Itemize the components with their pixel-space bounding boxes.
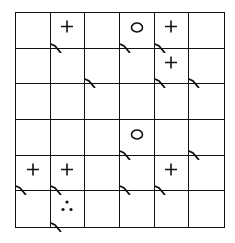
grid-cell-r6-c4 [120,191,155,227]
plus-icon [164,161,178,180]
grid-cell-r3-c5 [155,84,190,120]
grid-cell-r5-c2 [51,156,86,192]
grid-cell-r3-c6 [189,84,224,120]
grid-cell-r5-c6 [189,156,224,192]
corner-tick-icon [120,145,132,155]
corner-tick-icon [155,180,167,190]
corner-tick-icon [155,38,167,48]
grid-cell-r5-c5 [155,156,190,192]
corner-tick-icon [51,217,63,227]
grid-cell-r2-c5 [155,49,190,85]
plus-icon [60,19,74,38]
grid-cell-r1-c6 [189,13,224,49]
grid-cell-r5-c4 [120,156,155,192]
grid-cell-r6-c3 [85,191,120,227]
grid-cell-r4-c3 [85,120,120,156]
grid-cell-r4-c1 [16,120,51,156]
grid-cell-r6-c2 [51,191,86,227]
grid-cell-r2-c3 [85,49,120,85]
plus-icon [164,54,178,73]
corner-tick-icon [189,145,201,155]
corner-tick-icon [155,73,167,83]
three-dots-icon [60,198,74,217]
grid-cell-r1-c1 [16,13,51,49]
corner-tick-icon [120,38,132,48]
plus-icon [26,161,40,180]
grid-cell-r2-c4 [120,49,155,85]
grid-cell-r4-c5 [155,120,190,156]
grid-cell-r1-c2 [51,13,86,49]
circle-icon [130,126,144,145]
corner-tick-icon [51,180,63,190]
grid-cell-r2-c6 [189,49,224,85]
grid-cell-r5-c3 [85,156,120,192]
grid-cell-r4-c4 [120,120,155,156]
circle-icon [130,19,144,38]
grid-cell-r4-c6 [189,120,224,156]
grid-cell-r6-c1 [16,191,51,227]
grid-cell-r5-c1 [16,156,51,192]
grid-cell-r3-c3 [85,84,120,120]
grid-cell-r3-c4 [120,84,155,120]
grid-cell-r1-c5 [155,13,190,49]
grid-cell-r3-c2 [51,84,86,120]
grid-cell-r2-c1 [16,49,51,85]
grid-cell-r6-c6 [189,191,224,227]
grid-cell-r3-c1 [16,84,51,120]
plus-icon [164,19,178,38]
grid-cell-r1-c3 [85,13,120,49]
symbol-grid [15,12,225,228]
corner-tick-icon [189,73,201,83]
grid-cell-r4-c2 [51,120,86,156]
corner-tick-icon [120,180,132,190]
corner-tick-icon [85,73,97,83]
corner-tick-icon [51,38,63,48]
grid-cell-r1-c4 [120,13,155,49]
corner-tick-icon [16,180,28,190]
grid-cell-r2-c2 [51,49,86,85]
plus-icon [60,161,74,180]
grid-cell-r6-c5 [155,191,190,227]
